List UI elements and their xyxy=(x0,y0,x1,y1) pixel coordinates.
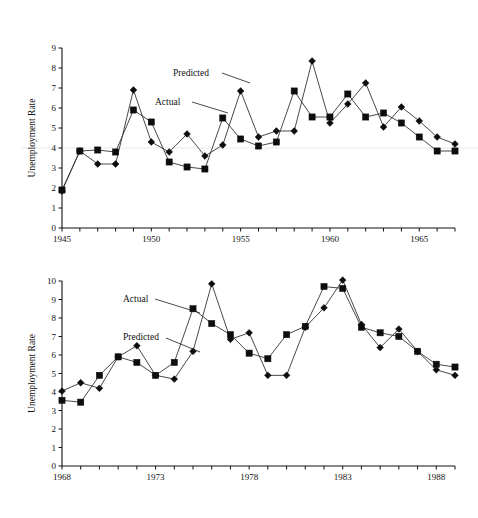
y-tick-label: 6 xyxy=(52,103,57,113)
x-tick-label: 1978 xyxy=(240,472,259,482)
data-point-predicted xyxy=(309,58,316,65)
data-point-actual xyxy=(345,91,351,97)
data-point-predicted xyxy=(59,388,66,395)
data-point-predicted xyxy=(94,161,101,168)
chart-bottom-svg: 01234567891019681973197819831988Unemploy… xyxy=(0,259,478,518)
data-point-actual xyxy=(96,372,102,378)
data-point-predicted xyxy=(273,128,280,135)
data-point-actual xyxy=(434,148,440,154)
y-tick-label: 4 xyxy=(52,387,57,397)
y-tick-label: 3 xyxy=(52,406,57,416)
data-point-actual xyxy=(220,115,226,121)
y-tick-label: 8 xyxy=(52,313,57,323)
y-tick-label: 6 xyxy=(52,350,57,360)
data-point-actual xyxy=(184,164,190,170)
data-point-actual xyxy=(416,134,422,140)
data-point-actual xyxy=(202,166,208,172)
data-point-actual xyxy=(95,147,101,153)
data-point-predicted xyxy=(130,87,137,94)
data-point-actual xyxy=(273,139,279,145)
data-point-actual xyxy=(398,120,404,126)
y-tick-label: 9 xyxy=(52,295,57,305)
data-point-predicted xyxy=(264,372,271,379)
data-point-predicted xyxy=(208,280,215,287)
y-tick-label: 2 xyxy=(52,183,57,193)
series-line-predicted xyxy=(62,61,455,191)
data-point-actual xyxy=(134,359,140,365)
y-tick-label: 7 xyxy=(52,332,57,342)
y-tick-label: 4 xyxy=(52,143,57,153)
data-point-actual xyxy=(327,114,333,120)
data-point-predicted xyxy=(77,379,84,386)
data-point-predicted xyxy=(452,372,459,379)
data-point-actual xyxy=(291,88,297,94)
series-line-actual xyxy=(62,287,455,403)
data-point-predicted xyxy=(112,161,119,168)
y-axis-title: Unemployment Rate xyxy=(27,99,37,178)
y-tick-label: 5 xyxy=(52,123,57,133)
data-point-actual xyxy=(377,330,383,336)
chart-bottom-panel: 01234567891019681973197819831988Unemploy… xyxy=(0,259,478,518)
annotation-leader-line xyxy=(192,102,228,113)
y-tick-label: 7 xyxy=(52,83,57,93)
data-point-actual xyxy=(380,110,386,116)
y-tick-label: 0 xyxy=(52,461,57,471)
data-point-actual xyxy=(148,119,154,125)
y-axis-title: Unemployment Rate xyxy=(27,334,37,413)
data-point-predicted xyxy=(171,376,178,383)
data-point-actual xyxy=(246,350,252,356)
series-annotation-actual: Actual xyxy=(123,294,149,304)
series-annotation-predicted: Predicted xyxy=(123,332,159,342)
data-point-actual xyxy=(283,332,289,338)
x-tick-label: 1960 xyxy=(321,234,340,244)
y-tick-label: 1 xyxy=(52,203,57,213)
data-point-predicted xyxy=(255,134,262,141)
y-tick-label: 3 xyxy=(52,163,57,173)
annotation-leader-line xyxy=(222,73,250,83)
x-tick-label: 1988 xyxy=(427,472,446,482)
series-annotation-predicted: Predicted xyxy=(173,68,209,78)
data-point-predicted xyxy=(246,329,253,336)
data-point-predicted xyxy=(133,342,140,349)
series-annotation-actual: Actual xyxy=(155,97,181,107)
data-point-actual xyxy=(166,159,172,165)
x-tick-label: 1955 xyxy=(232,234,251,244)
data-point-actual xyxy=(59,397,65,403)
data-point-actual xyxy=(238,136,244,142)
data-point-predicted xyxy=(237,88,244,95)
x-tick-label: 1968 xyxy=(53,472,72,482)
figure-page: 012345678919451950195519601965Unemployme… xyxy=(0,0,478,518)
data-point-predicted xyxy=(148,139,155,146)
data-point-actual xyxy=(209,320,215,326)
data-point-actual xyxy=(255,143,261,149)
data-point-actual xyxy=(340,285,346,291)
data-point-predicted xyxy=(452,141,459,148)
data-point-actual xyxy=(130,107,136,113)
data-point-actual xyxy=(452,364,458,370)
data-point-predicted xyxy=(339,277,346,284)
x-tick-label: 1965 xyxy=(410,234,429,244)
data-point-actual xyxy=(321,283,327,289)
data-point-actual xyxy=(78,399,84,405)
y-tick-label: 5 xyxy=(52,369,57,379)
chart-top-panel: 012345678919451950195519601965Unemployme… xyxy=(0,0,478,259)
data-point-actual xyxy=(452,148,458,154)
data-point-predicted xyxy=(283,372,290,379)
data-point-actual xyxy=(112,149,118,155)
x-tick-label: 1945 xyxy=(53,234,72,244)
data-point-predicted xyxy=(96,385,103,392)
chart-top-svg: 012345678919451950195519601965Unemployme… xyxy=(0,0,478,259)
x-tick-label: 1950 xyxy=(142,234,161,244)
y-tick-label: 0 xyxy=(52,223,57,233)
data-point-actual xyxy=(265,356,271,362)
y-tick-label: 1 xyxy=(52,443,57,453)
y-tick-label: 10 xyxy=(47,276,57,286)
y-tick-label: 8 xyxy=(52,63,57,73)
data-point-actual xyxy=(363,114,369,120)
data-point-predicted xyxy=(291,128,298,135)
x-tick-label: 1973 xyxy=(147,472,166,482)
y-tick-label: 9 xyxy=(52,43,57,53)
data-point-actual xyxy=(396,333,402,339)
y-tick-label: 2 xyxy=(52,424,57,434)
x-tick-label: 1983 xyxy=(334,472,353,482)
